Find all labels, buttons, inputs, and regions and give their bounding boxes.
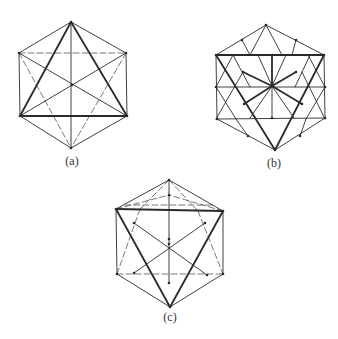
vertex-dot bbox=[324, 86, 327, 89]
edge bbox=[250, 86, 272, 118]
vertex-dot bbox=[295, 39, 298, 42]
vertex-dot bbox=[241, 39, 244, 42]
edge bbox=[292, 40, 296, 55]
vertex-dot bbox=[125, 52, 128, 55]
edge bbox=[306, 87, 325, 119]
vertex-dot bbox=[271, 117, 274, 120]
edge bbox=[20, 116, 71, 148]
highlighted-edge bbox=[71, 22, 127, 116]
vertex-dot bbox=[126, 115, 129, 118]
vertex-dot bbox=[222, 273, 225, 276]
vertex-dot bbox=[242, 71, 245, 74]
figure-a-icosahedron bbox=[18, 21, 129, 150]
vertex-dot bbox=[71, 84, 74, 87]
edge bbox=[242, 40, 250, 55]
vertex-dot bbox=[168, 238, 171, 241]
highlighted-edge bbox=[243, 72, 272, 86]
highlighted-edge bbox=[170, 211, 223, 307]
vertex-dot bbox=[247, 135, 250, 138]
edge bbox=[258, 55, 272, 86]
edge bbox=[302, 72, 325, 119]
vertex-dot bbox=[168, 179, 171, 182]
vertex-dot bbox=[116, 273, 119, 276]
vertex-dot bbox=[243, 103, 246, 106]
vertex-dot bbox=[168, 243, 171, 246]
vertex-dot bbox=[133, 222, 136, 225]
vertex-dot bbox=[324, 117, 327, 120]
vertex-dot bbox=[215, 54, 218, 57]
figure-c-label: (c) bbox=[163, 310, 176, 325]
vertex-dot bbox=[299, 135, 302, 138]
edge bbox=[170, 274, 223, 307]
vertex-dot bbox=[295, 71, 298, 74]
vertex-dot bbox=[265, 24, 268, 27]
vertex-dot bbox=[115, 208, 118, 211]
vertex-dot bbox=[70, 147, 73, 150]
hidden-edge bbox=[198, 211, 223, 274]
vertex-dot bbox=[216, 118, 219, 121]
figure-a-label: (a) bbox=[65, 154, 78, 169]
edge bbox=[117, 274, 170, 307]
vertex-dot bbox=[168, 282, 171, 285]
edge bbox=[236, 119, 248, 136]
edge bbox=[295, 55, 310, 87]
edge bbox=[116, 209, 117, 274]
edge bbox=[300, 119, 306, 136]
vertex-dot bbox=[274, 149, 277, 152]
figure-c-icosahedron bbox=[115, 179, 225, 309]
highlighted-edge bbox=[244, 86, 272, 104]
vertex-dot bbox=[204, 222, 207, 225]
figure-b-icosahedron bbox=[215, 24, 327, 152]
vertex-dot bbox=[222, 210, 225, 213]
icosahedron-diagram bbox=[0, 0, 338, 339]
vertex-dot bbox=[215, 86, 218, 89]
vertex-dot bbox=[301, 103, 304, 106]
highlighted-edge bbox=[116, 209, 170, 307]
edge bbox=[169, 180, 223, 211]
vertex-dot bbox=[206, 274, 209, 277]
hidden-edge bbox=[19, 53, 71, 148]
vertex-dot bbox=[323, 54, 326, 57]
hidden-edge bbox=[169, 180, 198, 211]
vertex-dot bbox=[70, 21, 73, 24]
vertex-dot bbox=[18, 52, 21, 55]
edge bbox=[272, 86, 294, 118]
vertex-dot bbox=[169, 306, 172, 309]
edge bbox=[233, 55, 250, 87]
vertex-dot bbox=[271, 85, 274, 88]
edge bbox=[19, 53, 20, 116]
edge bbox=[134, 223, 207, 275]
highlighted-edge bbox=[116, 209, 223, 211]
edge bbox=[71, 116, 127, 148]
edge bbox=[126, 53, 127, 116]
figure-b-label: (b) bbox=[267, 156, 281, 171]
vertex-dot bbox=[168, 194, 171, 197]
vertex-dot bbox=[133, 272, 136, 275]
vertex-dot bbox=[19, 115, 22, 118]
highlighted-edge bbox=[272, 86, 302, 104]
vertex-dot bbox=[271, 54, 274, 57]
